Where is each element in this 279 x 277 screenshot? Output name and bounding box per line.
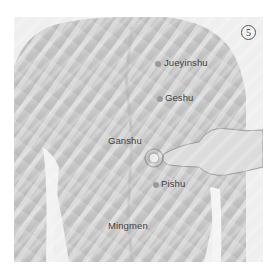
acupoint-label-pishu: Pishu (161, 178, 185, 189)
acupoint-label-mingmen: Mingmen (108, 220, 148, 231)
acupoint-label-jueyinshu: Jueyinshu (164, 57, 208, 68)
acupoint-dot-pishu (153, 182, 159, 188)
acupoint-dot-geshu (157, 96, 163, 102)
step-number-badge: 5 (241, 25, 256, 40)
acupoint-dot-jueyinshu (155, 61, 161, 67)
acupoint-label-ganshu: Ganshu (108, 135, 142, 146)
acupoint-label-geshu: Geshu (165, 92, 194, 103)
